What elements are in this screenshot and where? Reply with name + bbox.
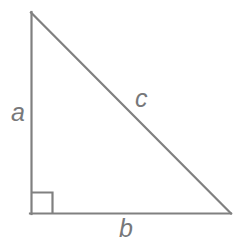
right-triangle-figure: a c b	[0, 0, 247, 248]
side-label-b: b	[119, 216, 133, 241]
side-label-a: a	[11, 100, 25, 125]
triangle-drawing	[0, 0, 247, 248]
right-angle-marker-icon	[32, 193, 53, 215]
triangle-side-c-line	[31, 13, 231, 214]
side-label-c: c	[135, 86, 148, 111]
